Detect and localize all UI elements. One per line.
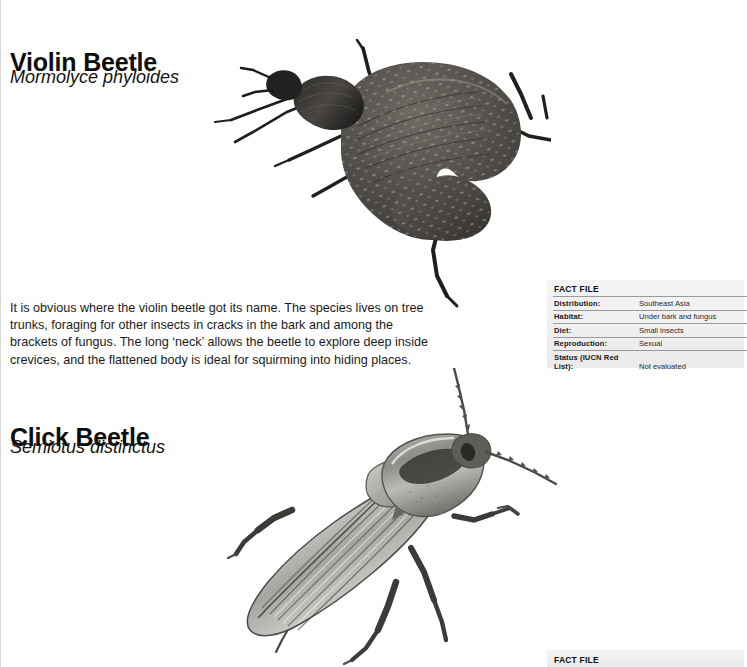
encyclopedia-page: Violin Beetle Mormolyce phyloides	[1, 0, 743, 667]
factfile-table: Distribution: Southeast Asia Habitat: Un…	[553, 296, 747, 373]
factfile-value: Sexual	[638, 337, 747, 351]
factfile-value: Southeast Asia	[638, 297, 747, 311]
factfile-violin-beetle: FACT FILE Distribution: Southeast Asia H…	[547, 280, 744, 368]
factfile-value: Not evaluated	[638, 351, 747, 374]
factfile-label: Distribution:	[553, 297, 638, 311]
factfile-heading: FACT FILE	[547, 650, 744, 667]
factfile-label: Habitat:	[553, 310, 638, 324]
factfile-click-beetle: FACT FILE	[547, 650, 744, 667]
click-beetle-illustration	[196, 368, 616, 667]
factfile-value: Under bark and fungus	[638, 310, 747, 324]
table-row: Habitat: Under bark and fungus	[553, 310, 747, 324]
factfile-label: Diet:	[553, 324, 638, 338]
factfile-label: Reproduction:	[553, 337, 638, 351]
factfile-heading: FACT FILE	[547, 280, 744, 296]
violin-beetle-illustration	[191, 0, 551, 310]
table-row: Reproduction: Sexual	[553, 337, 747, 351]
factfile-value: Small insects	[638, 324, 747, 338]
scientific-name-click-beetle: Semiotus distinctus	[10, 438, 165, 456]
table-row: Distribution: Southeast Asia	[553, 297, 747, 311]
body-text-violin-beetle: It is obvious where the violin beetle go…	[10, 300, 442, 369]
table-row: Diet: Small insects	[553, 324, 747, 338]
scientific-name-violin-beetle: Mormolyce phyloides	[10, 68, 179, 86]
